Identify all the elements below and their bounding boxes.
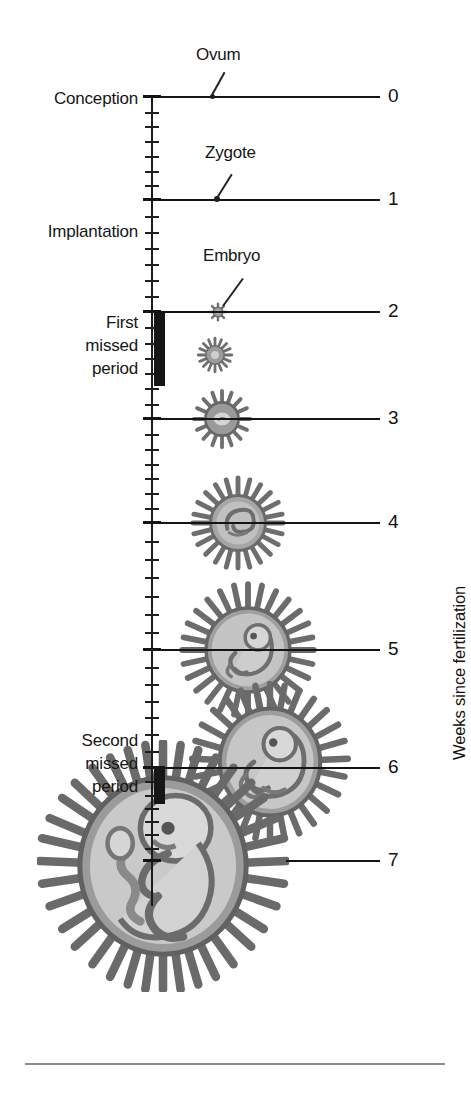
axis-day-tick bbox=[145, 264, 159, 266]
axis-week-cap-1 bbox=[143, 198, 161, 201]
axis-title-weeks-since-fertilization: Weeks since fertilization bbox=[450, 586, 469, 760]
week-rule-1 bbox=[155, 199, 380, 201]
axis-day-tick bbox=[145, 701, 159, 703]
embryo-leader-line bbox=[222, 278, 244, 307]
axis-day-tick bbox=[145, 156, 159, 158]
axis-day-tick bbox=[145, 493, 159, 495]
week-number-2: 2 bbox=[388, 301, 399, 320]
axis-week-cap-5 bbox=[143, 648, 161, 651]
axis-week-cap-3 bbox=[143, 417, 161, 420]
axis-day-tick bbox=[145, 734, 159, 736]
axis-day-tick bbox=[145, 171, 159, 173]
ovum-dot bbox=[210, 94, 215, 99]
milestone-label-conception: Conception bbox=[0, 87, 138, 110]
week-rule-0 bbox=[155, 96, 380, 98]
axis-week-cap-4 bbox=[143, 521, 161, 524]
conceptus-embryo-wk2b bbox=[195, 335, 235, 375]
axis-day-tick bbox=[145, 614, 159, 616]
axis-day-tick bbox=[145, 751, 159, 753]
week-rule-6 bbox=[155, 767, 380, 769]
axis-day-tick bbox=[145, 478, 159, 480]
axis-day-tick bbox=[145, 508, 159, 510]
milestone-label-second-missed-period: Second missed period bbox=[0, 729, 138, 798]
axis-day-tick bbox=[145, 632, 159, 634]
stage-label-zygote: Zygote bbox=[205, 143, 256, 162]
axis-day-tick bbox=[145, 126, 159, 128]
axis-day-tick bbox=[145, 141, 159, 143]
axis-day-tick bbox=[145, 280, 159, 282]
first-missed-period-bar bbox=[154, 313, 165, 386]
week-number-4: 4 bbox=[388, 512, 399, 531]
axis-day-tick bbox=[145, 216, 159, 218]
stage-label-ovum: Ovum bbox=[196, 45, 241, 64]
zygote-dot bbox=[214, 196, 220, 202]
axis-day-tick bbox=[145, 248, 159, 250]
axis-day-tick bbox=[145, 434, 159, 436]
second-missed-period-bar bbox=[154, 766, 165, 804]
axis-day-tick bbox=[145, 296, 159, 298]
gestation-timeline-figure: Conception Implantation First missed per… bbox=[0, 0, 471, 1100]
axis-day-tick bbox=[145, 232, 159, 234]
week-number-5: 5 bbox=[388, 639, 399, 658]
milestone-label-first-missed-period: First missed period bbox=[0, 311, 138, 380]
week-rule-2 bbox=[155, 311, 380, 313]
axis-day-tick bbox=[145, 464, 159, 466]
axis-day-tick bbox=[145, 449, 159, 451]
figure-bottom-rule bbox=[25, 1063, 445, 1065]
axis-day-tick bbox=[145, 667, 159, 669]
axis-day-tick bbox=[145, 596, 159, 598]
week-rule-3 bbox=[155, 418, 380, 420]
week-rule-7 bbox=[286, 860, 380, 862]
axis-day-tick bbox=[145, 808, 159, 810]
axis-day-tick bbox=[145, 112, 159, 114]
week-rule-5 bbox=[155, 649, 380, 651]
axis-week-cap-0 bbox=[143, 95, 161, 98]
axis-day-tick bbox=[145, 684, 159, 686]
milestone-label-implantation: Implantation bbox=[0, 220, 138, 243]
axis-week-cap-7 bbox=[143, 859, 161, 862]
week-number-0: 0 bbox=[388, 86, 399, 105]
axis-day-tick bbox=[145, 821, 159, 823]
week-rule-4 bbox=[155, 522, 380, 524]
axis-day-tick bbox=[145, 559, 159, 561]
zygote-leader-line bbox=[216, 174, 233, 199]
ovum-leader-line bbox=[211, 72, 225, 96]
week-number-3: 3 bbox=[388, 408, 399, 427]
axis-day-tick bbox=[145, 404, 159, 406]
axis-day-tick bbox=[145, 388, 159, 390]
axis-day-tick bbox=[145, 577, 159, 579]
week-number-6: 6 bbox=[388, 757, 399, 776]
axis-day-tick bbox=[145, 541, 159, 543]
week-number-7: 7 bbox=[388, 850, 399, 869]
axis-day-tick bbox=[145, 717, 159, 719]
stage-label-embryo: Embryo bbox=[203, 246, 260, 265]
axis-day-tick bbox=[145, 834, 159, 836]
week-number-1: 1 bbox=[388, 189, 399, 208]
axis-day-tick bbox=[145, 848, 159, 850]
axis-day-tick bbox=[145, 185, 159, 187]
